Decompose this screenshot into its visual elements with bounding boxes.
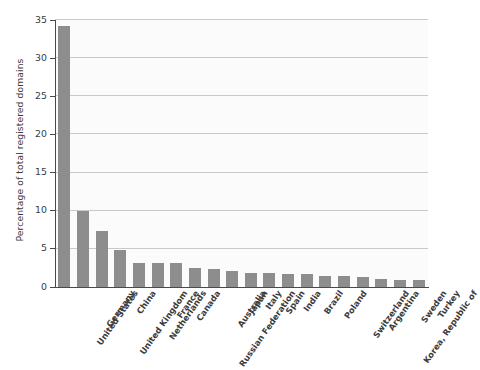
bar[interactable]	[413, 280, 425, 287]
bar[interactable]	[133, 263, 145, 287]
bars-layer	[55, 20, 428, 287]
bar[interactable]	[58, 26, 70, 287]
bar[interactable]	[114, 250, 126, 287]
y-tick-label: 0	[41, 281, 47, 292]
bar[interactable]	[245, 273, 257, 287]
bar[interactable]	[301, 274, 313, 287]
bar[interactable]	[152, 263, 164, 287]
bar[interactable]	[282, 274, 294, 287]
bar[interactable]	[226, 271, 238, 287]
bar[interactable]	[96, 231, 108, 287]
y-tick-label: 5	[41, 242, 47, 253]
y-axis-ticks: 05101520253035	[0, 0, 55, 370]
y-tick-label: 15	[35, 166, 47, 177]
x-tick-label: Brazil	[322, 289, 345, 316]
y-tick-label: 35	[35, 14, 47, 25]
x-tick-label: Poland	[343, 289, 369, 321]
bar[interactable]	[189, 268, 201, 287]
y-tick-label: 20	[35, 128, 47, 139]
bar[interactable]	[263, 273, 275, 287]
x-axis-labels: United StatesGermanyUnited KingdomChinaN…	[55, 289, 460, 370]
y-tick-label: 25	[35, 90, 47, 101]
bar[interactable]	[77, 211, 89, 287]
bar[interactable]	[357, 277, 369, 287]
bar[interactable]	[319, 276, 331, 287]
bar[interactable]	[338, 276, 350, 287]
bar[interactable]	[208, 269, 220, 287]
bar[interactable]	[394, 280, 406, 287]
y-tick-label: 30	[35, 52, 47, 63]
x-axis-line	[55, 287, 429, 288]
x-tick-label: Germany	[105, 289, 137, 329]
y-tick-label: 10	[35, 204, 47, 215]
bar[interactable]	[375, 279, 387, 287]
bar[interactable]	[170, 263, 182, 287]
